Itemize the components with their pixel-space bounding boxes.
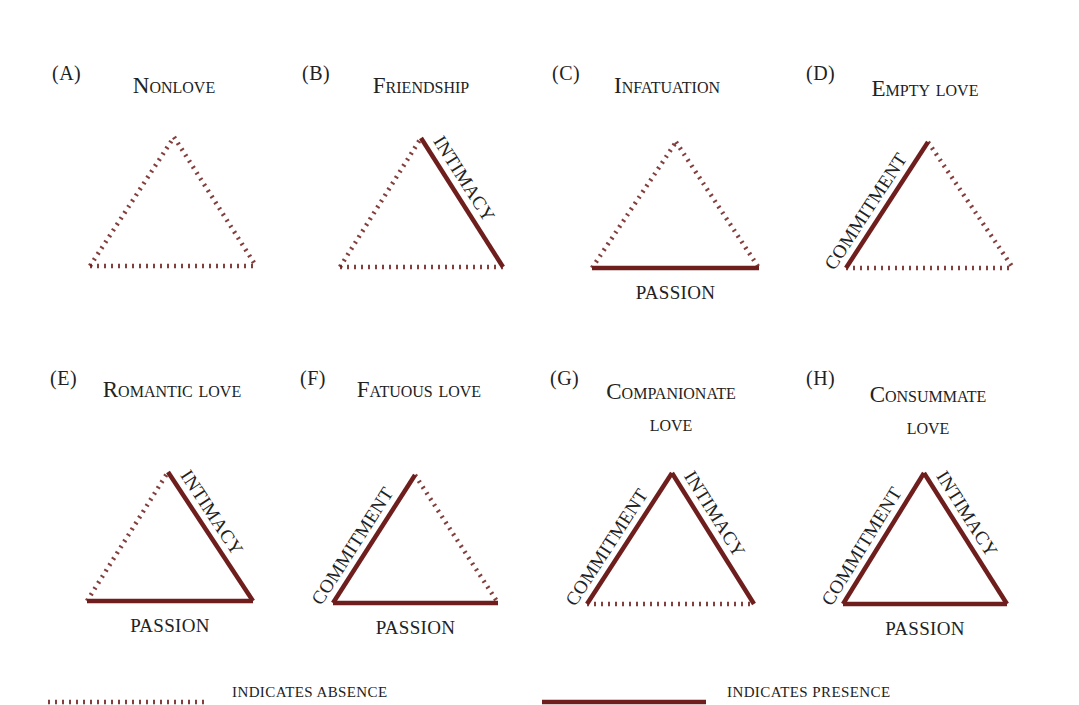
panel-title-line1: Friendship: [291, 70, 551, 102]
love-triangle-figure: (A)Nonlove(B)FriendshipINTIMACY(C)Infatu…: [0, 0, 1079, 705]
panel-title: Nonlove: [44, 70, 304, 102]
panel-title-line2: love: [541, 408, 801, 440]
triangle-lines-layer: [0, 0, 1079, 705]
commitment-edge: [90, 137, 174, 266]
panel-title: Companionatelove: [541, 376, 801, 440]
panel-title: Fatuous love: [289, 374, 549, 406]
intimacy-edge: [415, 475, 498, 603]
legend-absence-label: INDICATES ABSENCE: [232, 684, 388, 701]
passion-label: PASSION: [875, 618, 975, 640]
commitment-edge: [592, 142, 676, 268]
panel-title: Empty love: [795, 73, 1055, 105]
commitment-edge: [87, 472, 168, 601]
panel-title-line1: Romantic love: [42, 374, 302, 406]
panel-title-line1: Consummate: [798, 379, 1058, 411]
passion-label: PASSION: [120, 615, 220, 637]
panel-title-line1: Nonlove: [44, 70, 304, 102]
panel-title-line1: Empty love: [795, 73, 1055, 105]
commitment-edge: [340, 138, 421, 267]
panel-title-line1: Infatuation: [537, 70, 797, 102]
intimacy-edge: [174, 137, 256, 266]
panel-title-line1: Fatuous love: [289, 374, 549, 406]
passion-label: PASSION: [366, 617, 466, 639]
panel-title: Infatuation: [537, 70, 797, 102]
panel-title-line2: love: [798, 411, 1058, 443]
passion-label: PASSION: [626, 282, 726, 304]
panel-title: Romantic love: [42, 374, 302, 406]
panel-title: Consummatelove: [798, 379, 1058, 443]
panel-title-line1: Companionate: [541, 376, 801, 408]
intimacy-edge: [928, 142, 1013, 268]
legend-presence-label: INDICATES PRESENCE: [727, 684, 890, 701]
intimacy-edge: [676, 142, 759, 268]
panel-title: Friendship: [291, 70, 551, 102]
